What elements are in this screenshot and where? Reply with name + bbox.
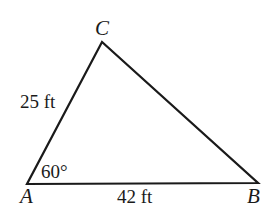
- side-label-ac: 25 ft: [20, 91, 56, 112]
- vertex-label-a: A: [18, 184, 33, 208]
- vertex-label-b: B: [247, 184, 260, 208]
- side-label-ab: 42 ft: [117, 186, 153, 207]
- vertex-label-c: C: [95, 16, 110, 40]
- angle-label-a: 60°: [41, 161, 68, 182]
- triangle-diagram: C A B 25 ft 42 ft 60°: [0, 0, 274, 208]
